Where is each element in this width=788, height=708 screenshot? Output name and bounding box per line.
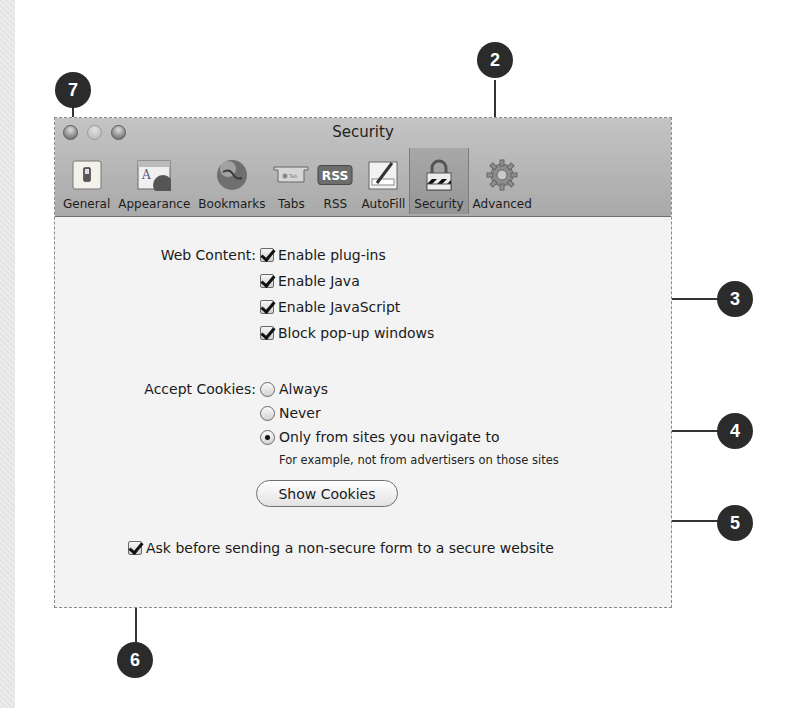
callout-5: 5: [717, 505, 753, 541]
tabs-icon: Tab: [273, 158, 309, 192]
appearance-icon: A: [136, 158, 172, 192]
accept-cookies-label: Accept Cookies:: [144, 381, 256, 397]
show-cookies-button[interactable]: Show Cookies: [256, 480, 398, 507]
callout-3: 3: [717, 281, 753, 317]
callout-2: 2: [477, 42, 513, 78]
tab-autofill[interactable]: AutoFill: [357, 148, 409, 214]
general-switch-icon: [69, 158, 105, 192]
gear-icon: [484, 158, 520, 192]
radio-icon[interactable]: [260, 382, 275, 397]
svg-text:A: A: [141, 168, 151, 182]
tab-bookmarks[interactable]: Bookmarks: [194, 148, 269, 214]
radio-cookies-never[interactable]: Never: [260, 405, 321, 421]
cookies-hint: For example, not from advertisers on tho…: [279, 453, 559, 467]
tab-advanced[interactable]: Advanced: [469, 148, 536, 214]
tab-general[interactable]: General: [59, 148, 114, 214]
autofill-pencil-icon: [365, 158, 401, 192]
checkbox-icon[interactable]: [260, 274, 274, 288]
radio-icon[interactable]: [260, 406, 275, 421]
checkbox-enable-plugins[interactable]: Enable plug-ins: [260, 247, 386, 263]
rss-icon: RSS: [317, 158, 353, 192]
window-title: Security: [55, 123, 671, 141]
callout-6: 6: [117, 642, 153, 678]
title-bar: Security General A Appearance Bookmarks: [55, 118, 671, 217]
checkbox-icon[interactable]: [260, 300, 274, 314]
tab-rss[interactable]: RSS RSS: [313, 148, 357, 214]
web-content-label: Web Content:: [161, 247, 256, 263]
preferences-toolbar: General A Appearance Bookmarks Tab Tabs: [59, 148, 536, 214]
checkbox-icon[interactable]: [128, 541, 142, 555]
svg-text:Tab: Tab: [288, 173, 297, 179]
checkbox-enable-java[interactable]: Enable Java: [260, 273, 360, 289]
security-pane: Web Content: Enable plug-ins Enable Java…: [55, 218, 671, 607]
checkbox-enable-javascript[interactable]: Enable JavaScript: [260, 299, 400, 315]
tab-security[interactable]: Security: [409, 148, 468, 214]
callout-4: 4: [717, 413, 753, 449]
tab-appearance[interactable]: A Appearance: [114, 148, 194, 214]
radio-icon-selected[interactable]: [260, 430, 275, 445]
checkbox-icon[interactable]: [260, 326, 274, 340]
callout-7: 7: [55, 72, 91, 108]
radio-cookies-always[interactable]: Always: [260, 381, 328, 397]
rss-badge-text: RSS: [322, 169, 349, 183]
checkbox-ask-nonsecure-form[interactable]: Ask before sending a non-secure form to …: [128, 540, 554, 556]
radio-cookies-visited-sites[interactable]: Only from sites you navigate to: [260, 429, 499, 445]
checkbox-block-popups[interactable]: Block pop-up windows: [260, 325, 434, 341]
globe-icon: [214, 158, 250, 192]
page-edge-strip: [0, 0, 15, 708]
preferences-window: Security General A Appearance Bookmarks: [54, 117, 672, 608]
tab-tabs[interactable]: Tab Tabs: [269, 148, 313, 214]
padlock-icon: [421, 158, 457, 192]
checkbox-icon[interactable]: [260, 248, 274, 262]
